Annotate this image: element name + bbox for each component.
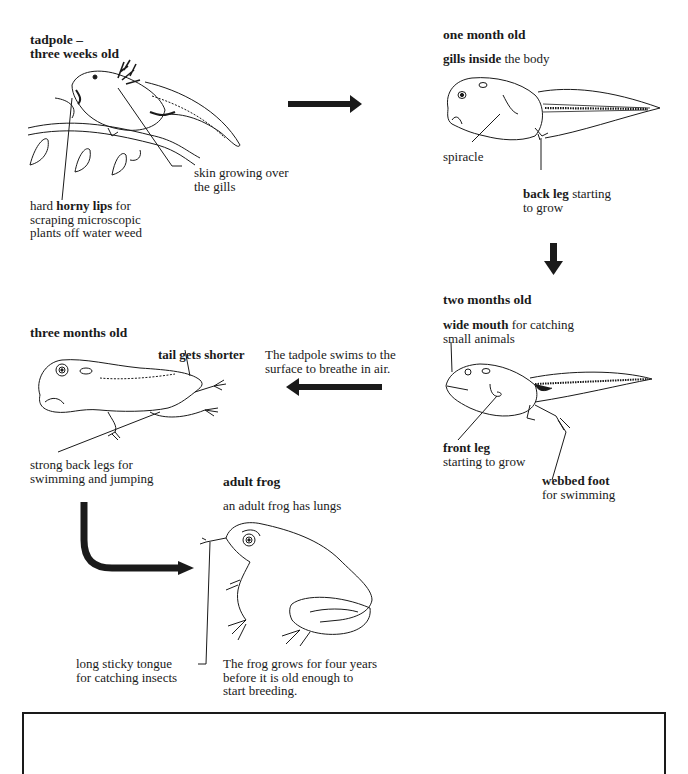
arrow-down-right-icon [84,502,194,575]
label-bold-text: gills inside [443,51,501,66]
label-line: scraping microscopic [30,213,142,227]
label-strong-back-legs: strong back legs for swimming and jumpin… [30,458,154,485]
label-line: swimming and jumping [30,472,154,486]
label-bold-text: back leg [523,186,569,201]
label-tail-shorter: tail gets shorter [158,348,245,362]
arrow-left-icon [286,378,382,396]
froglet-three-months-drawing [39,350,226,452]
stage-title-three-months: three months old [30,326,127,340]
label-four-years: The frog grows for four years before it … [223,657,377,698]
label-bold-text: wide mouth [443,317,508,332]
label-back-leg: back leg starting to grow [523,187,611,214]
stage-title-tadpole-three-weeks: tadpole – three weeks old [30,33,119,61]
label-line: plants off water weed [30,226,142,240]
stage-title-one-month: one month old [443,28,526,42]
label-bold-text: front leg [443,441,525,455]
label-line: for swimming [542,488,615,502]
label-line: for catching insects [76,671,177,685]
label-gills-inside: gills inside the body [443,52,550,66]
label-line: long sticky tongue [76,657,177,671]
title-line: three weeks old [30,47,119,61]
label-line: the gills [194,180,289,194]
label-line: to grow [523,201,611,215]
label-text: the body [501,51,549,66]
bottom-frame [22,712,666,774]
stage-title-two-months: two months old [443,293,532,307]
arrow-down-icon [544,243,563,275]
label-horny-lips: hard horny lips for scraping microscopic… [30,199,142,240]
label-line: skin growing over [194,166,289,180]
stage-title-adult-frog: adult frog [223,475,280,489]
label-line: small animals [443,332,574,346]
label-text: for catching [508,317,574,332]
title-line: tadpole – [30,33,119,47]
label-bold-text: webbed foot [542,474,615,488]
label-line: surface to breathe in air. [265,362,396,376]
label-front-leg: front leg starting to grow [443,441,525,468]
label-text: starting [569,186,611,201]
label-spiracle: spiracle [443,150,483,164]
arrow-right-icon [288,95,362,113]
label-line: before it is old enough to [223,671,377,685]
label-line: strong back legs for [30,458,154,472]
label-text: for [112,198,130,213]
label-line: start breeding. [223,684,377,698]
label-bold-text: horny lips [56,198,112,213]
label-lungs: an adult frog has lungs [223,499,341,513]
label-line: starting to grow [443,455,525,469]
label-line: The frog grows for four years [223,657,377,671]
label-line: The tadpole swims to the [265,348,396,362]
label-wide-mouth: wide mouth for catching small animals [443,318,574,345]
label-breathe-air: The tadpole swims to the surface to brea… [265,348,396,375]
label-skin-over-gills: skin growing over the gills [194,166,289,193]
label-sticky-tongue: long sticky tongue for catching insects [76,657,177,684]
label-text: hard [30,198,56,213]
adult-frog-drawing [198,523,372,664]
label-webbed-foot: webbed foot for swimming [542,474,615,501]
